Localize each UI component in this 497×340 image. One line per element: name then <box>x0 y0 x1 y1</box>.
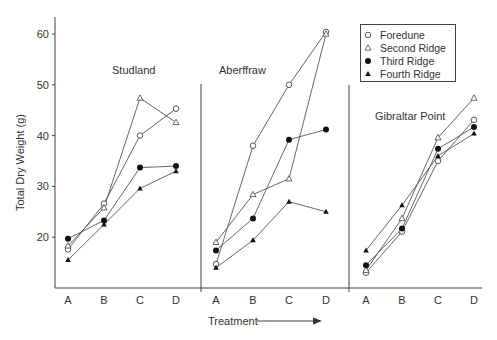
x-tick-label: C <box>136 294 144 306</box>
legend: ForeduneSecond RidgeThird RidgeFourth Ri… <box>361 25 456 82</box>
x-tick-label: D <box>322 294 330 306</box>
x-tick-label: A <box>64 294 72 306</box>
open-triangle-marker <box>399 215 405 220</box>
open-triangle-marker <box>471 95 477 100</box>
x-tick-label: C <box>285 294 293 306</box>
open-circle-marker <box>250 143 256 149</box>
filled-triangle-marker <box>173 168 179 173</box>
legend-label: Second Ridge <box>380 42 446 54</box>
filled-triangle-marker <box>286 199 292 204</box>
x-tick-label: D <box>470 294 478 306</box>
open-circle-marker <box>173 106 179 112</box>
open-circle-marker <box>435 158 441 164</box>
open-triangle-marker <box>137 95 143 100</box>
filled-circle-marker <box>137 165 143 171</box>
panel-gibraltar-point: Gibraltar Point <box>363 95 477 276</box>
legend-label: Foredune <box>380 29 425 41</box>
filled-circle-marker <box>286 137 292 143</box>
x-tick-label: B <box>100 294 107 306</box>
open-circle-marker <box>286 82 292 88</box>
y-axis-label: Total Dry Weight (g) <box>14 114 26 211</box>
arrow-head-icon <box>313 318 322 325</box>
x-tick-label: A <box>212 294 220 306</box>
panel-title: Gibraltar Point <box>375 110 445 122</box>
y-tick-label: 40 <box>37 130 49 142</box>
y-tick-label: 20 <box>37 231 49 243</box>
filled-circle-marker <box>250 215 256 221</box>
filled-circle-marker <box>471 124 477 130</box>
open-circle-marker <box>471 117 477 123</box>
open-circle-marker <box>365 32 371 38</box>
chart-canvas: 2030405060Total Dry Weight (g)ABCDABCDAB… <box>0 0 497 340</box>
open-triangle-marker <box>286 176 292 181</box>
legend-label: Fourth Ridge <box>380 68 441 80</box>
y-tick-label: 60 <box>37 28 49 40</box>
panel-title: Studland <box>112 64 155 76</box>
legend-label: Third Ridge <box>380 55 434 67</box>
x-tick-label: D <box>172 294 180 306</box>
open-circle-marker <box>137 133 143 139</box>
open-triangle-marker <box>173 119 179 124</box>
series-line <box>366 120 474 273</box>
series-line <box>68 98 176 246</box>
x-tick-label: B <box>249 294 256 306</box>
panel-studland: Studland <box>65 64 179 262</box>
y-tick-label: 50 <box>37 79 49 91</box>
line-chart: 2030405060Total Dry Weight (g)ABCDABCDAB… <box>0 0 497 340</box>
series-line <box>216 130 326 251</box>
panel-title: Aberffraw <box>219 64 266 76</box>
panel-aberffraw: Aberffraw <box>213 29 329 270</box>
filled-circle-marker <box>399 226 405 232</box>
filled-circle-marker <box>65 236 71 242</box>
series-line <box>366 98 474 270</box>
x-tick-label: C <box>434 294 442 306</box>
filled-circle-marker <box>363 262 369 268</box>
x-tick-label: A <box>362 294 370 306</box>
filled-circle-marker <box>365 58 371 64</box>
series-line <box>366 134 474 251</box>
x-axis-label: Treatment <box>208 315 258 327</box>
y-tick-label: 30 <box>37 180 49 192</box>
x-tick-label: B <box>398 294 405 306</box>
filled-triangle-marker <box>471 131 477 136</box>
series-line <box>68 166 176 239</box>
series-line <box>68 171 176 260</box>
filled-circle-marker <box>323 127 329 133</box>
filled-circle-marker <box>435 146 441 152</box>
filled-circle-marker <box>213 247 219 253</box>
